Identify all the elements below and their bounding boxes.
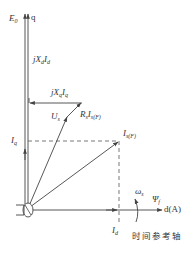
phasor-diagram: [0, 0, 194, 254]
label-jxqiq: jXqIq: [51, 88, 68, 98]
label-time-reference-axis: 时间参考轴: [132, 229, 182, 241]
label-us: Us: [51, 112, 60, 122]
is-phasor: [30, 142, 118, 207]
label-jxdid: jXdId: [33, 55, 50, 65]
label-is: Is(F): [123, 129, 136, 139]
us-phasor: [29, 117, 67, 206]
label-q-axis: q: [31, 13, 36, 22]
label-omega: ωs: [135, 187, 144, 197]
label-psi: Ψf: [152, 195, 160, 205]
rotor-icon: [16, 203, 33, 217]
rotation-arrow: [135, 199, 138, 222]
label-id: Id: [112, 226, 118, 236]
rsis-phasor: [67, 103, 81, 117]
label-rsis: RsIs(F): [80, 110, 101, 120]
label-e0: E0: [9, 14, 18, 24]
label-iq: Iq: [11, 136, 17, 146]
label-d-axis: d(A): [164, 205, 181, 214]
